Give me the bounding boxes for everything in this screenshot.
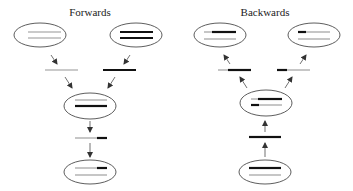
arrow-up-left	[224, 55, 230, 64]
ellipse-outline	[194, 23, 246, 47]
ellipse-outline	[239, 160, 291, 184]
arrow-up-right	[285, 77, 292, 88]
arrow-down-left	[108, 77, 115, 88]
forwards-top-right-pair	[110, 23, 162, 47]
forwards-backwards-diagram: Forwards Backwards	[0, 0, 353, 191]
arrow-down-right	[65, 77, 72, 88]
ellipse-outline	[64, 160, 116, 184]
ellipse-outline	[240, 90, 292, 116]
backwards-middle-pair	[240, 90, 292, 116]
forwards-middle-pair	[64, 93, 116, 119]
backwards-top-left-pair	[194, 23, 246, 47]
ellipse-outline	[288, 23, 340, 47]
backwards-title: Backwards	[241, 6, 290, 18]
arrow-up-left	[240, 77, 247, 88]
arrow-down-right	[51, 55, 57, 64]
forwards-title: Forwards	[69, 6, 111, 18]
ellipse-outline	[110, 23, 162, 47]
backwards-bottom-pair	[239, 160, 291, 184]
arrow-up-right	[300, 55, 306, 64]
arrow-down-left	[124, 55, 130, 64]
forwards-top-left-pair	[14, 23, 66, 47]
backwards-top-right-pair	[288, 23, 340, 47]
forwards-bottom-pair	[64, 160, 116, 184]
ellipse-outline	[14, 23, 66, 47]
